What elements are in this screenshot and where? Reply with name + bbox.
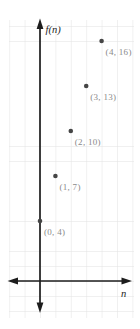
data-point [69,129,74,134]
data-point-label: (3, 13) [90,92,116,102]
data-point [38,219,43,224]
data-point [53,174,58,179]
data-point [84,84,89,89]
grid-background [9,20,134,318]
y-axis-label: f(n) [46,24,62,36]
data-point [99,39,104,44]
data-point-label: (2, 10) [75,137,101,147]
data-point-label: (4, 16) [106,47,132,57]
scatter-plot-figure: f(n) n (0, 4)(1, 7)(2, 10)(3, 13)(4, 16) [0,0,140,329]
data-point-label: (0, 4) [44,227,65,237]
plot-canvas: f(n) n (0, 4)(1, 7)(2, 10)(3, 13)(4, 16) [0,0,140,329]
x-axis-label: n [121,288,126,299]
data-point-label: (1, 7) [59,182,80,192]
